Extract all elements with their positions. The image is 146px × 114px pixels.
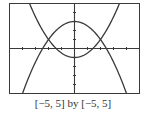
graph-window <box>0 0 146 96</box>
window-caption: [−5, 5] by [−5, 5] <box>0 97 146 109</box>
